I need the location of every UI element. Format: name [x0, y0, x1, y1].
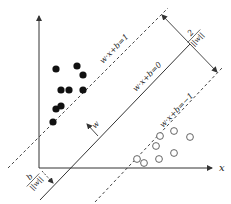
- positive-point: [65, 86, 72, 93]
- negative-point: [171, 128, 178, 135]
- negative-point: [156, 156, 163, 163]
- positive-margin-line: [8, 8, 168, 168]
- positive-point: [57, 102, 64, 109]
- positive-point: [57, 86, 64, 93]
- x-axis-label: x: [219, 162, 225, 173]
- negative-point: [157, 133, 164, 140]
- negative-class-points: [134, 128, 194, 167]
- positive-point: [79, 71, 86, 78]
- positive-point: [79, 86, 86, 93]
- positive-point: [49, 118, 56, 125]
- positive-point: [73, 62, 80, 69]
- negative-margin-label: w·x+b=−1: [158, 91, 195, 129]
- positive-point: [52, 65, 59, 72]
- svm-diagram: x w·x+b=0 w·x+b=1 w·x+b=−1 w 2 ||w|| b |…: [0, 0, 231, 204]
- negative-point: [141, 160, 148, 167]
- negative-point: [171, 150, 178, 157]
- negative-point: [187, 134, 194, 141]
- positive-class-points: [49, 62, 86, 125]
- negative-point: [153, 143, 160, 150]
- positive-margin-label: w·x+b=1: [98, 32, 131, 65]
- margin-width-fraction: 2 ||w||: [181, 23, 206, 48]
- negative-point: [134, 156, 141, 163]
